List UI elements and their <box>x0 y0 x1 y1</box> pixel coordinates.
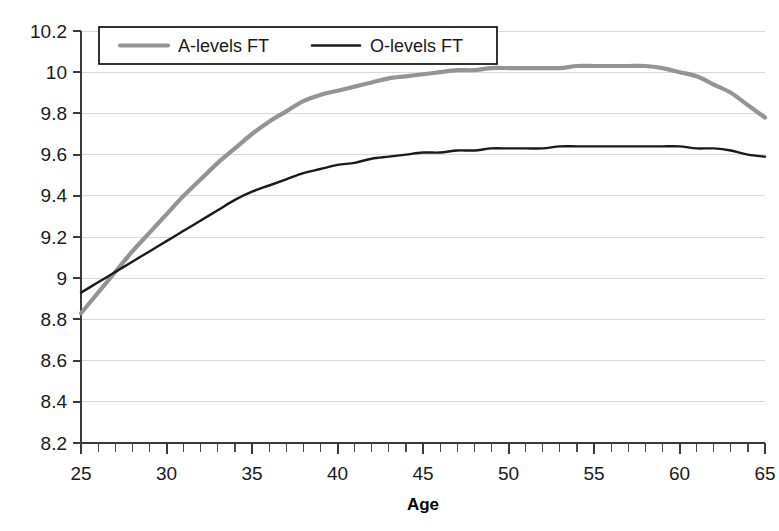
y-tick-label: 9.2 <box>41 227 67 248</box>
y-tick-label: 8.6 <box>41 350 67 371</box>
chart-canvas: 8.28.48.68.899.29.49.69.81010.2 25303540… <box>0 0 779 531</box>
x-tick-label: 50 <box>498 463 519 484</box>
y-axis-tick-labels: 8.28.48.68.899.29.49.69.81010.2 <box>30 21 67 454</box>
x-tick-label: 45 <box>412 463 433 484</box>
legend-label-o-levels-ft: O-levels FT <box>370 36 463 56</box>
x-tick-label: 35 <box>241 463 262 484</box>
y-tick-label: 8.8 <box>41 309 67 330</box>
x-tick-label: 25 <box>70 463 91 484</box>
x-tick-label: 55 <box>583 463 604 484</box>
y-tick-label: 10.2 <box>30 21 67 42</box>
x-tick-label: 60 <box>669 463 690 484</box>
x-axis-ticks <box>81 443 765 454</box>
y-tick-label: 10 <box>46 62 67 83</box>
data-series-group <box>81 66 765 313</box>
legend-label-a-levels-ft: A-levels FT <box>178 36 269 56</box>
x-tick-label: 30 <box>156 463 177 484</box>
legend: A-levels FT O-levels FT <box>99 27 497 64</box>
x-axis-tick-labels: 253035404550556065 <box>70 463 775 484</box>
y-tick-label: 9 <box>56 268 67 289</box>
line-chart: 8.28.48.68.899.29.49.69.81010.2 25303540… <box>0 0 779 531</box>
x-axis-title: Age <box>407 495 439 514</box>
series-line-o-levels-ft <box>81 146 765 292</box>
y-tick-label: 8.4 <box>41 391 68 412</box>
y-tick-label: 8.2 <box>41 433 67 454</box>
series-line-a-levels-ft <box>81 66 765 313</box>
y-tick-label: 9.8 <box>41 103 67 124</box>
y-tick-label: 9.4 <box>41 185 68 206</box>
x-tick-label: 40 <box>327 463 348 484</box>
y-tick-label: 9.6 <box>41 144 67 165</box>
x-tick-label: 65 <box>754 463 775 484</box>
y-axis-ticks <box>73 31 81 443</box>
gridlines <box>81 31 765 402</box>
